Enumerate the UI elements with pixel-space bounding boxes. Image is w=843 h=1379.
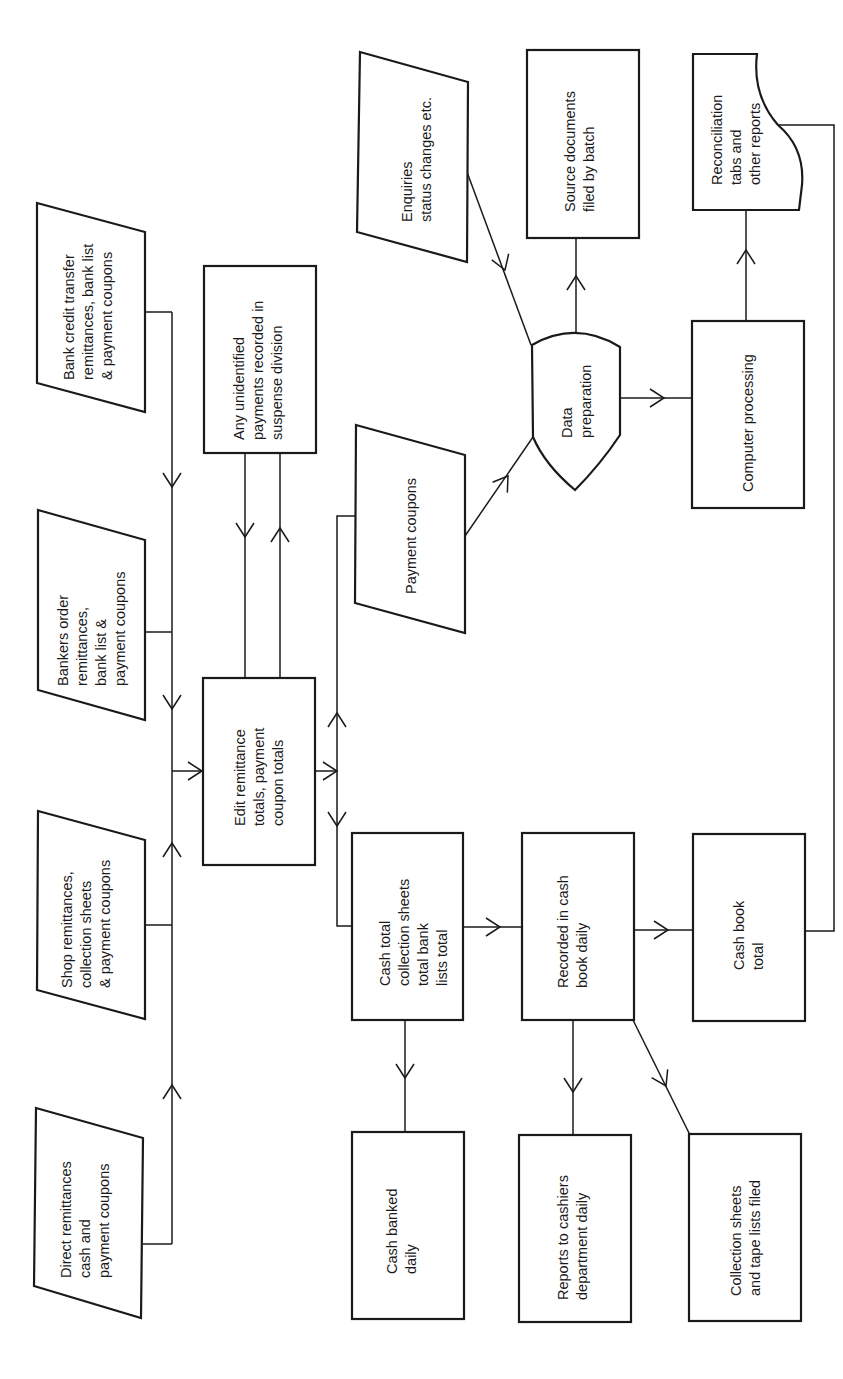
node-bankers-order[interactable]: Bankers order remittances, bank list & p… — [38, 510, 145, 720]
node-edit[interactable]: Edit remittance totals, payment coupon t… — [203, 678, 315, 865]
node-computer-label: Computer processing — [740, 354, 756, 492]
node-suspense[interactable]: Any unidentified payments recorded in su… — [204, 266, 316, 453]
node-source-docs[interactable]: Source documents filed by batch — [527, 50, 639, 238]
node-payment-coupons-label: Payment coupons — [403, 478, 419, 594]
cashbook-to-reconciliation-line — [777, 125, 834, 931]
node-cash-book-total[interactable]: Cash book total — [693, 834, 805, 1021]
node-cash-total[interactable]: Cash total collection sheets total bank … — [352, 833, 463, 1020]
node-computer[interactable]: Computer processing — [692, 321, 804, 508]
node-direct[interactable]: Direct remittances cash and payment coup… — [34, 1108, 143, 1318]
node-data-prep[interactable]: Data preparation — [532, 333, 620, 490]
node-shop[interactable]: Shop remittances, collection sheets & pa… — [37, 811, 145, 1019]
enquiries-to-dataprep-line — [467, 172, 531, 345]
node-reconciliation[interactable]: Reconciliation tabs and other reports — [693, 54, 802, 210]
node-enquiries[interactable]: Enquiries status changes etc. — [357, 52, 468, 262]
node-reports-cashiers[interactable]: Reports to cashiers department daily — [519, 1135, 631, 1322]
node-recorded[interactable]: Recorded in cash book daily — [522, 833, 634, 1020]
node-payment-coupons[interactable]: Payment coupons — [355, 425, 465, 633]
flowchart-canvas: Bank credit transfer remittances, bank l… — [0, 0, 843, 1379]
coupons-to-dataprep-line — [465, 437, 533, 536]
node-collection-filed[interactable]: Collection sheets and tape lists filed — [689, 1134, 801, 1321]
node-cash-banked[interactable]: Cash banked daily — [352, 1132, 464, 1319]
node-bank-credit-label: Bank credit transfer remittances, bank l… — [61, 240, 115, 380]
node-bank-credit[interactable]: Bank credit transfer remittances, bank l… — [37, 203, 145, 412]
node-shop-label: Shop remittances, collection sheets & pa… — [59, 860, 113, 988]
arrow-diagonal-icon — [493, 471, 516, 493]
recorded-to-collection-line — [633, 1020, 690, 1135]
